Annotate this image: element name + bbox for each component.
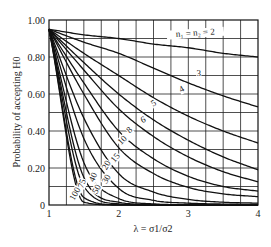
curve-label-n-4: 4 <box>177 83 186 94</box>
y-tick-label: 1.00 <box>28 15 46 26</box>
y-tick-label: 0.40 <box>28 126 46 137</box>
x-axis-label: λ = σ1/σ2 <box>133 223 172 234</box>
x-tick-label: 4 <box>256 208 261 219</box>
x-tick-label: 2 <box>116 208 121 219</box>
curve-label-n-8: 8 <box>124 124 135 135</box>
x-tick-label: 1 <box>47 208 52 219</box>
y-tick-label: 0.20 <box>28 163 46 174</box>
y-axis-label: Probability of accepting H0 <box>11 57 22 168</box>
x-tick-label: 3 <box>186 208 191 219</box>
y-tick-label: 0.60 <box>28 89 46 100</box>
oc-curve-chart: 123400.200.400.600.801.00 n₁ = n₂ = 2345… <box>0 0 271 247</box>
curve-label-n-10: 10 <box>115 133 129 147</box>
curve-label-n-3: 3 <box>197 68 202 78</box>
y-tick-label: 0.80 <box>28 52 46 63</box>
grid-lines <box>49 20 258 205</box>
y-tick-label: 0 <box>40 200 45 211</box>
curve-label-n-n1-n2-2: n₁ = n₂ = 2 <box>176 26 216 39</box>
